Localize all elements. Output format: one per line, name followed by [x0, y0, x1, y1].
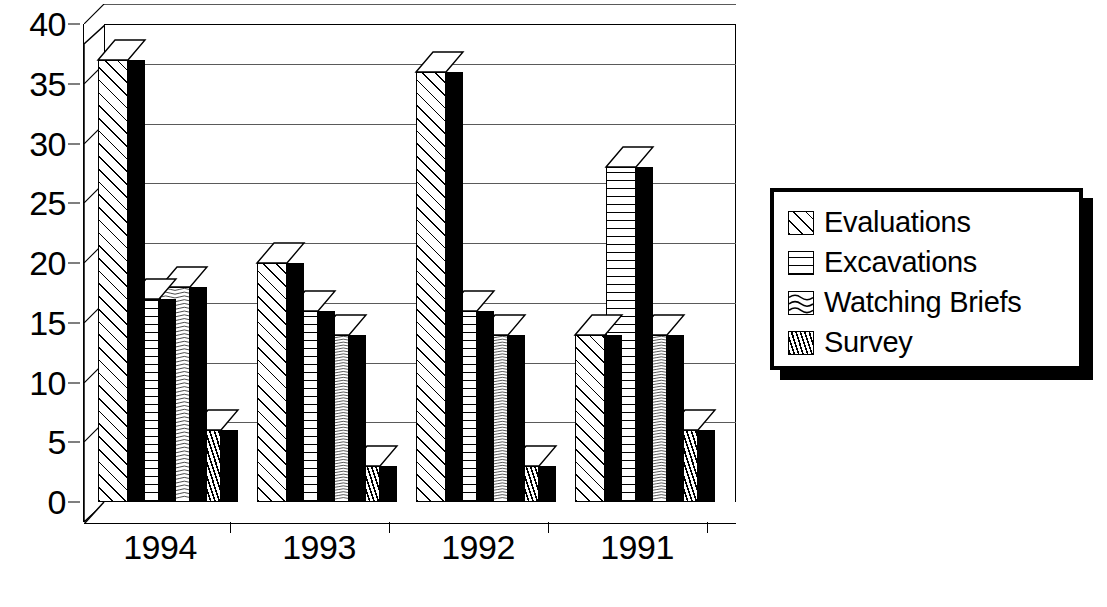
bar-side-face [159, 299, 176, 502]
y-axis-tick [68, 322, 80, 323]
legend-box: EvaluationsExcavationsWatching BriefsSur… [770, 188, 1083, 370]
bar-side-face [318, 311, 335, 502]
bar-top-face [257, 243, 287, 263]
legend-swatch-pattern [789, 252, 813, 274]
legend-swatch-icon [788, 331, 814, 355]
y-axis-tick-label: 5 [48, 423, 66, 462]
bar-side-face [380, 466, 397, 502]
y-axis-tick [68, 143, 80, 144]
bar-evaluations-1993 [257, 263, 287, 502]
gridline [104, 4, 736, 5]
x-axis-tick-label: 1991 [600, 528, 674, 567]
y-axis: 4035302520151050 [0, 0, 84, 547]
legend-swatch-icon [788, 251, 814, 275]
bar-side-face [287, 263, 304, 502]
x-axis-tick [548, 522, 549, 533]
legend-item-label: Survey [824, 326, 912, 359]
bar-front-face [98, 60, 128, 502]
y-axis-tick [68, 203, 80, 204]
y-axis-tick-label: 30 [29, 124, 66, 163]
bar-side-face [190, 287, 207, 502]
legend-item-label: Excavations [824, 246, 977, 279]
y-axis-tick [68, 83, 80, 84]
legend-swatch-pattern [789, 332, 813, 354]
bar-top-face [606, 147, 636, 167]
bar-top-face [575, 315, 605, 335]
y-axis-tick-label: 25 [29, 184, 66, 223]
y-axis-tick [68, 263, 80, 264]
y-axis-tick-label: 20 [29, 244, 66, 283]
legend-swatch-pattern [789, 212, 813, 234]
bar-side-face [477, 311, 494, 502]
legend-item-watching-briefs[interactable]: Watching Briefs [788, 283, 1079, 322]
x-axis: 1994199319921991 [84, 528, 764, 578]
y-axis-tick [68, 382, 80, 383]
gridline-depth-connector [84, 4, 106, 24]
y-axis-tick-label: 35 [29, 64, 66, 103]
bar-side-face [539, 466, 556, 502]
bar-evaluations-1992 [416, 72, 446, 502]
legend-swatch-icon [788, 211, 814, 235]
legend-swatch-pattern [789, 292, 813, 314]
bar-evaluations-1991 [575, 335, 605, 502]
bar-front-face [257, 263, 287, 502]
bar-side-face [446, 72, 463, 502]
plot-area [84, 24, 736, 522]
y-axis-tick-label: 15 [29, 303, 66, 342]
x-axis-tick-label: 1992 [441, 528, 515, 567]
legend-item-label: Watching Briefs [824, 286, 1022, 319]
bar-side-face [605, 335, 622, 502]
x-axis-tick [389, 522, 390, 533]
bar-side-face [349, 335, 366, 502]
bar-evaluations-1994 [98, 60, 128, 502]
legend-item-evaluations[interactable]: Evaluations [788, 203, 1079, 242]
chart-figure: 4035302520151050 [0, 0, 1107, 607]
bar-front-face [416, 72, 446, 502]
x-axis-tick-label: 1993 [282, 528, 356, 567]
x-axis-tick [707, 522, 708, 533]
legend-item-label: Evaluations [824, 206, 971, 239]
y-axis-tick [68, 442, 80, 443]
bar-side-face [128, 60, 145, 502]
legend-item-survey[interactable]: Survey [788, 323, 1079, 362]
bar-side-face [698, 430, 715, 502]
bar-side-face [636, 167, 653, 502]
legend-item-excavations[interactable]: Excavations [788, 243, 1079, 282]
bar-top-face [98, 40, 128, 60]
bar-top-face [416, 52, 446, 72]
bar-front-face [575, 335, 605, 502]
bar-side-face [508, 335, 525, 502]
x-axis-tick-label: 1994 [123, 528, 197, 567]
y-axis-tick [68, 502, 80, 503]
legend: EvaluationsExcavationsWatching BriefsSur… [770, 188, 1093, 380]
legend-swatch-icon [788, 291, 814, 315]
y-axis-tick-label: 40 [29, 5, 66, 44]
x-axis-tick [230, 522, 231, 533]
y-axis-tick [68, 24, 80, 25]
bars-layer [84, 24, 736, 522]
y-axis-tick-label: 10 [29, 363, 66, 402]
bar-side-face [221, 430, 238, 502]
y-axis-tick-label: 0 [48, 483, 66, 522]
bar-side-face [667, 335, 684, 502]
